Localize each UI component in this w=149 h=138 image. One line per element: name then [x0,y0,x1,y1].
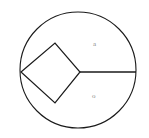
label-o: o [92,93,96,100]
geometry-figure [0,0,149,138]
figure-background [0,0,149,138]
label-a: a [93,41,96,48]
